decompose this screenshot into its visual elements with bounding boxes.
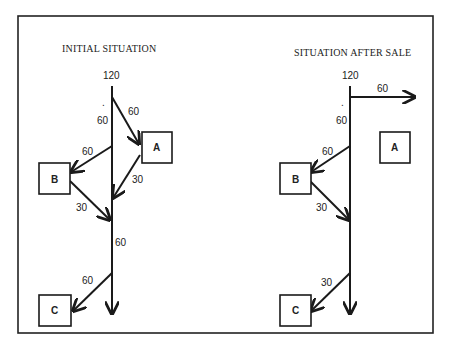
svg-text:C: C — [51, 305, 58, 316]
svg-text:B: B — [51, 174, 58, 185]
edge-label: 60 — [322, 146, 334, 157]
edge-label: 60 — [128, 106, 140, 117]
dot-mark: . — [341, 97, 344, 108]
diagram-frame — [18, 16, 433, 333]
panel-situation-after-sale: SITUATION AFTER SALE 120 . 60 60 60 30 3… — [280, 47, 415, 326]
svg-text:A: A — [391, 142, 398, 153]
edge-label: 30 — [76, 202, 88, 213]
svg-text:B: B — [292, 174, 299, 185]
svg-text:A: A — [153, 142, 160, 153]
edge-label: 30 — [132, 174, 144, 185]
dot-mark: . — [102, 97, 105, 108]
svg-text:C: C — [292, 305, 299, 316]
panel-initial-situation: INITIAL SITUATION 120 . 60 60 60 30 60 3… — [39, 43, 172, 326]
trunk-label: 60 — [336, 115, 348, 126]
trunk-label: 60 — [115, 237, 127, 248]
node-a: A — [380, 132, 410, 163]
panel-title: SITUATION AFTER SALE — [294, 47, 411, 58]
flow-diagram: INITIAL SITUATION 120 . 60 60 60 30 60 3… — [0, 0, 450, 360]
edge-label: 60 — [377, 83, 389, 94]
node-c: C — [39, 295, 71, 326]
edge-label: 30 — [321, 277, 333, 288]
trunk-label: 60 — [97, 115, 109, 126]
edge-b-to-trunk — [70, 181, 110, 220]
node-c: C — [280, 295, 311, 326]
source-value: 120 — [103, 70, 120, 81]
node-b: B — [39, 163, 70, 194]
edge-label: 60 — [82, 146, 94, 157]
edge-b-to-trunk — [310, 181, 349, 220]
node-b: B — [280, 163, 311, 194]
source-value: 120 — [342, 70, 359, 81]
panel-title: INITIAL SITUATION — [62, 43, 156, 54]
edge-label: 30 — [316, 202, 328, 213]
edge-trunk-to-a — [112, 97, 139, 144]
node-a: A — [142, 132, 172, 163]
edge-label: 60 — [82, 275, 94, 286]
